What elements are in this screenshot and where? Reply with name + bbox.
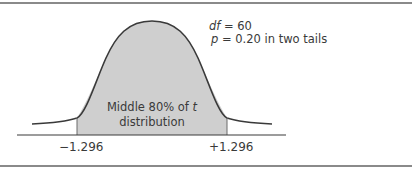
df-label: df	[209, 19, 220, 33]
stats-annotation: df = 60 p = 0.20 in two tails	[209, 20, 327, 46]
region-label-line2: distribution	[100, 115, 204, 130]
region-label-line1: Middle 80% of	[107, 100, 189, 114]
left-critical-value-label: −1.296	[59, 140, 103, 154]
df-value: = 60	[224, 19, 252, 33]
p-label: p	[211, 32, 218, 46]
region-label: Middle 80% of t distribution	[100, 100, 204, 130]
right-critical-value-label: +1.296	[209, 140, 253, 154]
bottom-border-rule	[0, 165, 412, 167]
region-label-variable: t	[193, 100, 198, 114]
p-value: = 0.20 in two tails	[222, 32, 327, 46]
p-annotation: p = 0.20 in two tails	[209, 33, 327, 46]
